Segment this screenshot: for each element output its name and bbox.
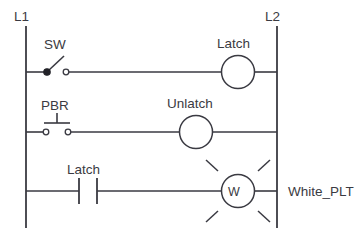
rung-2: PBR Unlatch bbox=[26, 96, 277, 149]
sw-switch-pivot-terminal[interactable] bbox=[44, 69, 50, 75]
pbr-pushbutton-right-terminal[interactable] bbox=[65, 129, 71, 135]
pilot-light-ray-lower-left bbox=[206, 211, 218, 222]
latch-contact-label: Latch bbox=[67, 162, 100, 177]
pilot-light-ray-upper-right bbox=[258, 160, 270, 171]
latch-coil-label: Latch bbox=[217, 36, 250, 51]
pilot-light-letter: W bbox=[228, 185, 240, 199]
rung-3: Latch W White_PLT bbox=[26, 160, 354, 222]
ladder-diagram-canvas: L1 L2 SW Latch PBR bbox=[0, 0, 358, 236]
rung-1: SW Latch bbox=[26, 36, 277, 89]
latch-coil[interactable] bbox=[222, 56, 255, 89]
unlatch-coil-label: Unlatch bbox=[167, 96, 213, 111]
sw-switch-open-terminal[interactable] bbox=[63, 69, 69, 75]
sw-switch-blade[interactable] bbox=[48, 56, 64, 71]
pilot-light-ray-lower-right bbox=[258, 211, 270, 222]
pbr-pushbutton-left-terminal[interactable] bbox=[43, 129, 49, 135]
white-plt-label: White_PLT bbox=[288, 184, 354, 199]
sw-switch-label: SW bbox=[44, 37, 66, 52]
right-rail-label: L2 bbox=[265, 9, 280, 24]
pbr-pushbutton-label: PBR bbox=[41, 98, 69, 113]
pilot-light-ray-upper-left bbox=[206, 160, 218, 171]
left-rail-label: L1 bbox=[14, 9, 29, 24]
ladder-logic-diagram: L1 L2 SW Latch PBR bbox=[0, 0, 358, 236]
unlatch-coil[interactable] bbox=[180, 116, 213, 149]
